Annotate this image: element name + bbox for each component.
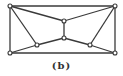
graph-node <box>8 4 12 8</box>
graph-diagram <box>0 0 123 60</box>
figure-caption: (b) <box>0 60 123 71</box>
graph-edge <box>90 45 115 53</box>
graph-node <box>62 19 66 23</box>
graph-node <box>62 36 66 40</box>
graph-edges <box>10 6 115 53</box>
graph-node <box>35 43 39 47</box>
graph-node <box>113 4 117 8</box>
graph-edge <box>37 38 64 45</box>
graph-edge <box>10 45 37 53</box>
graph-node <box>88 43 92 47</box>
graph-node <box>8 51 12 55</box>
graph-node <box>113 51 117 55</box>
graph-edge <box>64 38 90 45</box>
